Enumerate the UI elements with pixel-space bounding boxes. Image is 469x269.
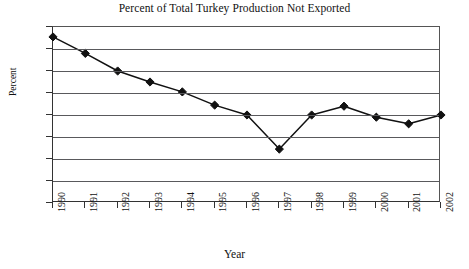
- x-axis-tick-label: 1992: [121, 192, 131, 212]
- gridline: [53, 137, 439, 138]
- x-axis-tick-label: 2002: [445, 192, 455, 212]
- gridline: [53, 71, 439, 72]
- x-axis-tick-label: 1991: [89, 192, 99, 212]
- x-axis-tick-mark: [84, 202, 85, 208]
- x-axis-tick-mark: [440, 202, 441, 208]
- x-axis-tick-mark: [52, 202, 53, 208]
- x-axis-tick-label: 1994: [186, 192, 196, 212]
- x-axis-title: Year: [0, 248, 469, 260]
- x-axis-tick-label: 2001: [412, 192, 422, 212]
- x-axis-tick-label: 2000: [380, 192, 390, 212]
- x-axis-tick-label: 1997: [283, 192, 293, 212]
- data-point-marker: [146, 78, 154, 86]
- gridline: [53, 181, 439, 182]
- x-axis-tick-mark: [278, 202, 279, 208]
- data-point-marker: [405, 120, 413, 128]
- x-axis-tick-mark: [375, 202, 376, 208]
- x-axis-tick-label: 1999: [348, 192, 358, 212]
- x-axis-tick-mark: [214, 202, 215, 208]
- x-axis-tick-label: 1995: [218, 192, 228, 212]
- data-point-marker: [340, 102, 348, 110]
- x-axis-tick-mark: [181, 202, 182, 208]
- x-axis-tick-label: 1998: [315, 192, 325, 212]
- gridline: [53, 93, 439, 94]
- plot-area: [52, 26, 440, 202]
- x-axis-tick-mark: [343, 202, 344, 208]
- x-axis-tick-mark: [149, 202, 150, 208]
- chart-figure: Percent of Total Turkey Production Not E…: [0, 0, 469, 269]
- data-point-marker: [178, 88, 186, 96]
- chart-title: Percent of Total Turkey Production Not E…: [0, 2, 469, 14]
- x-axis-tick-label: 1990: [57, 192, 67, 212]
- x-axis-tick-label: 1996: [251, 192, 261, 212]
- x-axis-tick-mark: [408, 202, 409, 208]
- data-point-marker: [49, 33, 57, 41]
- y-axis-title: Percent: [8, 68, 18, 97]
- x-axis-tick-label: 1993: [154, 192, 164, 212]
- data-point-marker: [81, 49, 89, 57]
- x-axis-tick-mark: [117, 202, 118, 208]
- gridline: [53, 49, 439, 50]
- data-point-marker: [211, 101, 219, 109]
- gridline: [53, 159, 439, 160]
- x-axis-tick-mark: [246, 202, 247, 208]
- gridline: [53, 115, 439, 116]
- x-axis-tick-mark: [311, 202, 312, 208]
